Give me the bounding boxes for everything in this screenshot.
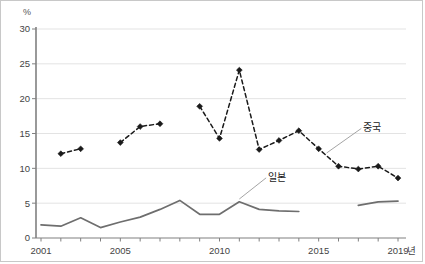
series-marker (58, 151, 64, 157)
y-tick-label: 15 (19, 128, 30, 139)
y-tick-label: 5 (25, 198, 30, 209)
series-marker (236, 67, 242, 73)
y-tick-label: 0 (25, 232, 30, 243)
series-marker (276, 138, 282, 144)
x-tick-label: 2001 (30, 245, 51, 256)
series-marker (395, 175, 401, 181)
x-axis-unit-label: 년 (407, 245, 416, 256)
series-line (41, 200, 299, 227)
series-marker (157, 121, 163, 127)
x-tick-label: 2015 (308, 245, 329, 256)
series-line (61, 149, 81, 154)
annotation-leader-line (239, 178, 266, 199)
annotation-leader-line (327, 128, 362, 153)
y-tick-label: 25 (19, 58, 30, 69)
chart-plot-area: 30252015105020012005201020152019년중국일본 (1, 1, 424, 263)
chart-figure: % 30252015105020012005201020152019년중국일본 (0, 0, 423, 262)
series-marker (256, 147, 262, 153)
y-tick-label: 20 (19, 93, 30, 104)
x-tick-label: 2005 (110, 245, 131, 256)
y-tick-label: 10 (19, 163, 30, 174)
series-annotation-label: 일본 (268, 172, 286, 183)
series-marker (355, 166, 361, 172)
y-tick-label: 30 (19, 23, 30, 34)
series-annotation-label: 중국 (363, 122, 381, 133)
x-tick-label: 2010 (209, 245, 230, 256)
series-marker (78, 146, 84, 152)
x-tick-label: 2019 (387, 245, 408, 256)
